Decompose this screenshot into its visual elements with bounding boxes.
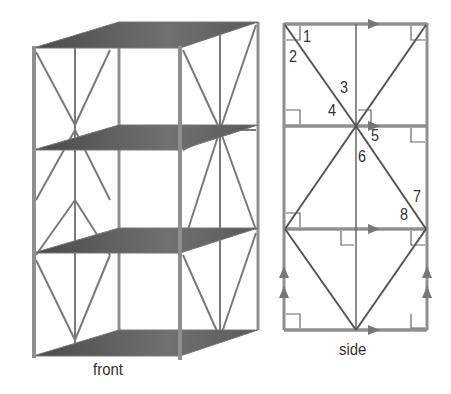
- angle-label-2: 2: [289, 48, 297, 66]
- shelves: [33, 22, 258, 356]
- diagram-canvas: [0, 0, 451, 394]
- shelf-3: [33, 228, 258, 253]
- angle-label-5: 5: [371, 127, 379, 145]
- angle-label-3: 3: [340, 79, 348, 97]
- angle-label-6: 6: [358, 148, 366, 166]
- shelf-2: [33, 125, 258, 150]
- left-face-bracing: [36, 48, 110, 355]
- shelf-bottom: [33, 330, 258, 356]
- side-caption: side: [339, 340, 366, 360]
- right-face-bracing: [183, 25, 256, 342]
- angle-label-7: 7: [413, 188, 421, 206]
- angle-label-1: 1: [303, 28, 311, 46]
- shelf-top: [33, 22, 258, 48]
- front-view: [33, 22, 258, 360]
- front-posts: [34, 46, 180, 360]
- side-view: [279, 19, 432, 335]
- angle-label-4: 4: [328, 102, 336, 120]
- front-caption: front: [93, 360, 123, 380]
- angle-label-8: 8: [400, 206, 408, 224]
